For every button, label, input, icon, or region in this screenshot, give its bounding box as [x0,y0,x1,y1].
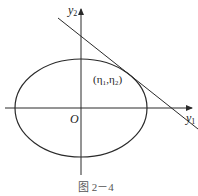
x-axis-label: y1 [186,112,195,126]
ellipse-tangent-diagram [0,0,198,196]
tangent-line [58,18,198,129]
y-axis-label: y2 [68,4,77,18]
point-label: (η₁,η₂) [93,74,122,85]
figure-caption: 图 2－4 [78,182,114,193]
origin-label: O [70,113,79,125]
